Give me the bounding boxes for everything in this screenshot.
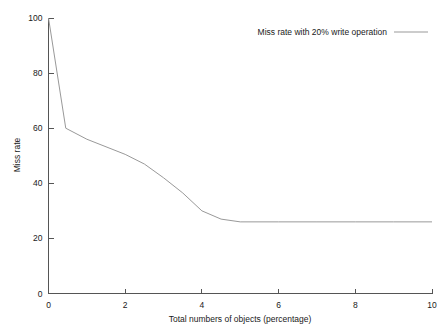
x-axis-title: Total numbers of objects (percentage) (169, 314, 312, 324)
x-tick-label: 4 (200, 300, 205, 310)
y-tick-label: 60 (33, 123, 43, 133)
y-axis-title: Miss rate (12, 137, 22, 172)
y-tick-label: 20 (33, 233, 43, 243)
legend-label: Miss rate with 20% write operation (258, 27, 388, 37)
x-tick-label: 0 (46, 300, 51, 310)
y-tick-label: 0 (38, 289, 43, 299)
x-tick-label: 10 (427, 300, 437, 310)
x-tick-label: 8 (353, 300, 358, 310)
x-tick-label: 2 (123, 300, 128, 310)
chart-background (0, 0, 445, 336)
y-tick-label: 40 (33, 178, 43, 188)
y-tick-label: 80 (33, 68, 43, 78)
line-chart: 020406080100 0246810 Miss rate with 20% … (0, 0, 445, 336)
chart-container: 020406080100 0246810 Miss rate with 20% … (0, 0, 445, 336)
y-tick-label: 100 (28, 13, 42, 23)
x-tick-label: 6 (276, 300, 281, 310)
